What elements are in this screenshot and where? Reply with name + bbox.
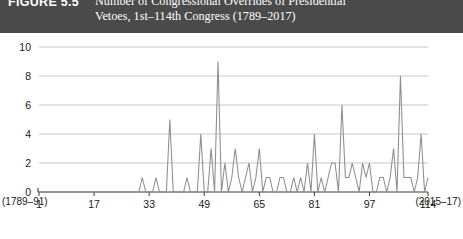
chart-plot-area: 0246810 1173349658197114 (1789–91) (2015… [0,33,463,239]
x-axis-sublabel-left: (1789–91) [2,196,48,207]
x-axis-tick-labels: 1173349658197114 [36,198,436,210]
figure-title-line-2: Vetoes, 1st–114th Congress (1789–2017) [95,9,455,24]
x-tick-97: 97 [364,198,376,210]
veto-overrides-series [39,62,428,193]
y-tick-2: 2 [25,157,31,169]
grid-lines [39,47,428,163]
figure-number-label: FIGURE 5.5 [8,0,79,9]
y-axis-tick-labels: 0246810 [19,41,31,198]
x-tick-81: 81 [309,198,321,210]
x-tick-49: 49 [198,198,210,210]
y-tick-4: 4 [25,128,31,140]
figure-title-line-1: Number of Congressional Overrides of Pre… [95,0,346,8]
y-tick-8: 8 [25,70,31,82]
figure-header-band: FIGURE 5.5 Number of Congressional Overr… [0,0,463,33]
y-tick-6: 6 [25,99,31,111]
figure-container: FIGURE 5.5 Number of Congressional Overr… [0,0,463,239]
line-chart: 0246810 1173349658197114 (1789–91) (2015… [0,33,463,239]
x-axis-sublabel-right: (2015–17) [415,196,461,207]
x-tick-65: 65 [253,198,265,210]
x-tick-33: 33 [143,198,155,210]
y-tick-10: 10 [19,41,31,53]
figure-title: Number of Congressional Overrides of Pre… [95,0,455,23]
x-tick-17: 17 [88,198,100,210]
